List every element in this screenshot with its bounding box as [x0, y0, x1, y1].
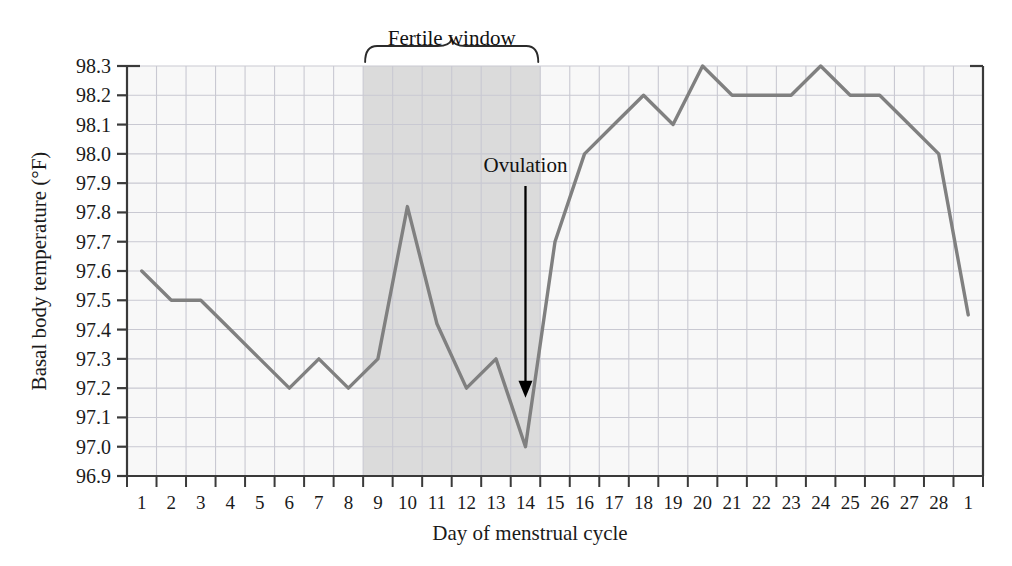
x-axis-tick-label: 27 [900, 492, 919, 513]
x-axis-tick-label: 9 [373, 492, 383, 513]
y-axis-title: Basal body temperature (°F) [27, 152, 51, 391]
y-axis-tick-label: 97.8 [76, 201, 111, 223]
x-axis-tick-label: 2 [167, 492, 177, 513]
x-axis-tick-label: 23 [782, 492, 801, 513]
x-axis-tick-label: 1 [963, 492, 973, 513]
x-axis-tick-label: 12 [457, 492, 476, 513]
x-axis-tick-label: 10 [398, 492, 417, 513]
x-axis-tick-label: 3 [196, 492, 206, 513]
x-axis-tick-label: 21 [723, 492, 742, 513]
y-axis-tick-label: 97.5 [76, 289, 111, 311]
basal-body-temperature-chart: 98.398.298.198.097.997.897.797.697.597.4… [0, 0, 1012, 566]
y-axis-tick-label: 97.0 [76, 436, 111, 458]
x-axis-tick-label: 14 [516, 492, 536, 513]
x-axis-tick-label: 18 [634, 492, 653, 513]
chart-figure: 98.398.298.198.097.997.897.797.697.597.4… [0, 0, 1012, 566]
x-axis-tick-label: 13 [486, 492, 505, 513]
x-axis-tick-label: 19 [664, 492, 683, 513]
x-axis-tick-label: 20 [693, 492, 712, 513]
y-axis-tick-label: 97.6 [76, 260, 111, 282]
x-axis-title: Day of menstrual cycle [432, 521, 627, 545]
y-axis-tick-label: 98.1 [76, 114, 111, 136]
y-axis-tick-label: 97.1 [76, 406, 111, 428]
x-axis-tick-label: 5 [255, 492, 265, 513]
y-axis-tick-label: 97.4 [76, 319, 111, 341]
y-axis-tick-label: 97.9 [76, 172, 111, 194]
x-axis-tick-label: 11 [428, 492, 446, 513]
x-axis-tick-label: 8 [344, 492, 354, 513]
y-axis-tick-label: 98.0 [76, 143, 111, 165]
y-axis-tick-label: 98.3 [76, 55, 111, 77]
x-axis-tick-label: 24 [811, 492, 831, 513]
y-axis-tick-label: 97.7 [76, 231, 111, 253]
x-axis-tick-label: 26 [870, 492, 889, 513]
x-axis-tick-label: 1 [137, 492, 147, 513]
y-axis-tick-label: 97.2 [76, 377, 111, 399]
x-axis-tick-label: 15 [546, 492, 565, 513]
x-axis-tick-label: 22 [752, 492, 771, 513]
x-axis-tick-label: 16 [575, 492, 594, 513]
y-axis-tick-labels: 98.398.298.198.097.997.897.797.697.597.4… [76, 55, 111, 487]
x-axis-tick-label: 17 [605, 492, 624, 513]
x-axis-tick-labels: 1234567891011121314151617181920212223242… [137, 492, 973, 513]
y-axis-tick-label: 97.3 [76, 348, 111, 370]
x-axis-tick-label: 6 [285, 492, 295, 513]
x-axis-tick-label: 28 [929, 492, 948, 513]
y-axis-tick-label: 96.9 [76, 465, 111, 487]
x-axis-tick-label: 7 [314, 492, 324, 513]
x-axis-tick-label: 4 [226, 492, 236, 513]
y-axis-tick-label: 98.2 [76, 84, 111, 106]
fertile-window-label: Fertile window [388, 26, 517, 50]
x-axis-tick-label: 25 [841, 492, 860, 513]
ovulation-label: Ovulation [483, 153, 567, 177]
